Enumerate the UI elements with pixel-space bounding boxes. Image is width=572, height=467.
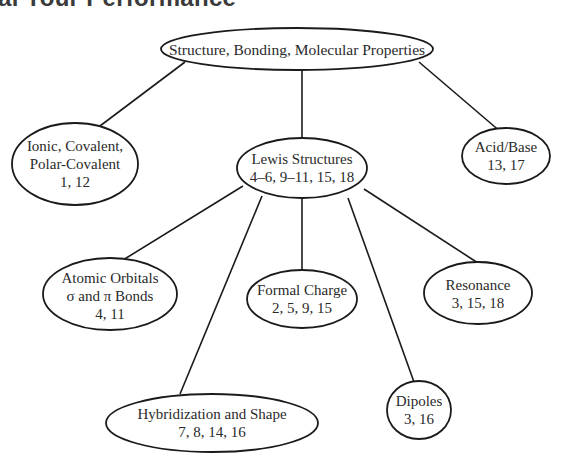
node-root-label: Structure, Bonding, Molecular Properties [169, 41, 425, 58]
node-hybrid-refs: 7, 8, 14, 16 [178, 424, 246, 440]
node-acid-base: Acid/Base 13, 17 [462, 128, 550, 184]
node-formal-charge: Formal Charge 2, 5, 9, 15 [247, 270, 357, 328]
node-ionic-covalent: Ionic, Covalent, Polar-Covalent 1, 12 [12, 123, 138, 205]
node-resonance: Resonance 3, 15, 18 [424, 262, 532, 324]
node-formal-refs: 2, 5, 9, 15 [272, 300, 332, 316]
node-resonance-refs: 3, 15, 18 [452, 295, 505, 311]
edges [92, 62, 502, 394]
node-acid-base-line-1: Acid/Base [475, 139, 538, 155]
node-atomic-line-2: σ and π Bonds [67, 288, 154, 304]
concept-map: Structure, Bonding, Molecular Properties… [0, 0, 572, 467]
node-acid-base-refs: 13, 17 [487, 157, 525, 173]
edge-root-ionic [92, 62, 185, 132]
node-root: Structure, Bonding, Molecular Properties [161, 28, 433, 70]
node-lewis-structures: Lewis Structures 4–6, 9–11, 15, 18 [237, 138, 367, 198]
node-ionic-line-2: Polar-Covalent [30, 156, 121, 172]
node-atomic-orbitals: Atomic Orbitals σ and π Bonds 4, 11 [43, 258, 177, 330]
node-atomic-line-1: Atomic Orbitals [61, 270, 158, 286]
node-dipoles-refs: 3, 16 [404, 411, 435, 427]
node-dipoles-line-1: Dipoles [396, 393, 443, 409]
node-resonance-line-1: Resonance [446, 277, 511, 293]
edge-lewis-atomic-orbitals [123, 186, 243, 260]
edge-lewis-dipoles [348, 198, 414, 382]
node-ionic-refs: 1, 12 [60, 174, 90, 190]
edge-root-acid-base [419, 62, 502, 133]
node-atomic-refs: 4, 11 [95, 306, 124, 322]
node-hybrid-line-1: Hybridization and Shape [137, 406, 286, 422]
node-lewis-line-1: Lewis Structures [251, 151, 352, 167]
node-formal-line-1: Formal Charge [257, 282, 347, 298]
node-lewis-refs: 4–6, 9–11, 15, 18 [250, 169, 354, 185]
node-dipoles: Dipoles 3, 16 [387, 381, 451, 439]
node-hybridization: Hybridization and Shape 7, 8, 14, 16 [106, 394, 318, 452]
edge-lewis-resonance [364, 189, 478, 263]
node-ionic-line-1: Ionic, Covalent, [27, 138, 123, 154]
